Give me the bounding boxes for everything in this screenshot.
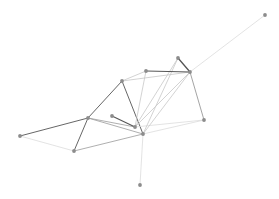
- graph-node: [133, 125, 137, 129]
- graph-node: [72, 149, 76, 153]
- figure-background: [0, 0, 279, 199]
- graph-node: [138, 183, 142, 187]
- network-graph-figure: [0, 0, 279, 199]
- graph-node: [110, 114, 114, 118]
- graph-node: [202, 118, 206, 122]
- graph-node: [188, 70, 192, 74]
- graph-node: [86, 116, 90, 120]
- graph-node: [263, 13, 267, 17]
- graph-node: [18, 134, 22, 138]
- graph-node: [176, 56, 180, 60]
- graph-node: [141, 132, 145, 136]
- graph-node: [120, 79, 124, 83]
- graph-node: [144, 69, 148, 73]
